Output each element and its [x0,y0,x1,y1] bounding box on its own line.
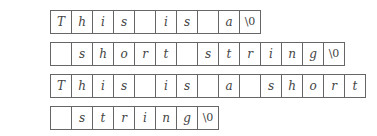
char-cell [51,107,72,129]
char-cell: s [177,11,198,33]
char-cell: n [282,43,303,65]
char-cell: r [240,43,261,65]
char-cell: s [114,11,135,33]
char-cell: n [156,107,177,129]
char-array: string\0 [50,106,219,130]
char-cell: h [93,43,114,65]
char-cell: h [72,75,93,97]
char-cell: t [219,43,240,65]
char-cell: i [261,43,282,65]
char-cell: o [114,43,135,65]
char-cell: h [72,11,93,33]
char-cell: T [51,11,72,33]
char-cell: a [219,11,240,33]
char-cell: g [177,107,198,129]
char-cell [177,43,198,65]
char-cell [198,75,219,97]
char-cell: o [303,75,324,97]
char-cell [135,75,156,97]
char-cell: t [345,75,365,97]
char-array: Thisisashort [50,74,366,98]
char-cell: s [198,43,219,65]
char-cell: s [261,75,282,97]
char-cell: g [303,43,324,65]
char-cell: t [156,43,177,65]
char-cell: s [177,75,198,97]
char-cell: t [93,107,114,129]
char-cell: r [324,75,345,97]
null-terminator-cell: \0 [198,107,218,129]
char-cell [135,11,156,33]
char-cell: T [51,75,72,97]
char-cell: s [114,75,135,97]
char-array: Thisisa\0 [50,10,261,34]
char-cell: i [93,11,114,33]
char-cell [198,11,219,33]
char-array: shortstring\0 [50,42,345,66]
char-cell [51,43,72,65]
null-terminator-cell: \0 [240,11,260,33]
char-cell: s [72,107,93,129]
char-cell: i [156,75,177,97]
char-cell: i [135,107,156,129]
char-cell: r [114,107,135,129]
char-cell [240,75,261,97]
char-cell: h [282,75,303,97]
char-cell: s [72,43,93,65]
char-cell: i [156,11,177,33]
char-cell: a [219,75,240,97]
char-cell: r [135,43,156,65]
null-terminator-cell: \0 [324,43,344,65]
char-cell: i [93,75,114,97]
